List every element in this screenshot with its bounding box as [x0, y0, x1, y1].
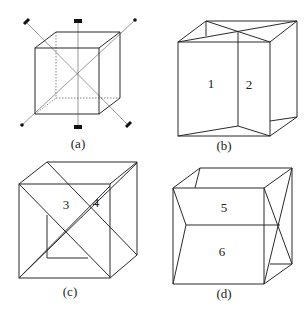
caption-b: (b) [216, 138, 231, 153]
c3-axis-marker-icon [24, 19, 131, 127]
face-label-4: 4 [93, 195, 100, 210]
cube-figure: (a) 1 2 (b) 3 4 (c) [0, 0, 308, 310]
face-label-6: 6 [219, 244, 226, 259]
caption-a: (a) [71, 136, 85, 151]
face-label-3: 3 [63, 197, 70, 212]
face-label-2: 2 [246, 77, 253, 92]
panel-c: 3 4 (c) [19, 162, 137, 299]
panel-b: 1 2 (b) [178, 21, 297, 153]
c4-axis-marker-icon [74, 125, 82, 129]
face-label-1: 1 [208, 76, 215, 91]
face-label-5: 5 [221, 200, 228, 215]
c4-axis-marker-icon [74, 19, 82, 23]
panel-d: 5 6 (d) [173, 168, 292, 301]
panel-a: (a) [20, 18, 137, 151]
caption-d: (d) [216, 286, 231, 301]
caption-c: (c) [63, 284, 77, 299]
